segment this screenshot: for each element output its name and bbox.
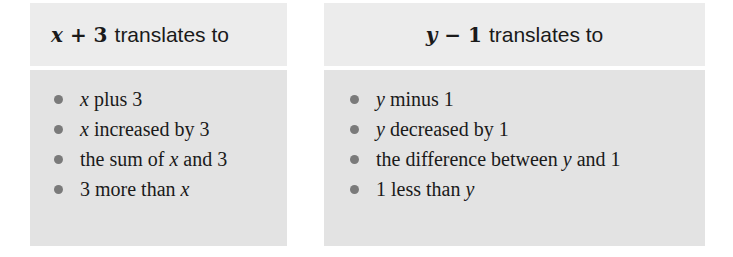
item-text-post: and 3 xyxy=(178,148,227,171)
item-text-post: plus 3 xyxy=(89,88,142,111)
item-variable: x xyxy=(80,118,89,141)
header-text: translates to xyxy=(489,23,603,47)
item-variable: x xyxy=(80,88,89,111)
list-item: y minus 1 xyxy=(324,84,705,114)
card-body: x plus 3 x increased by 3 the sum of x a… xyxy=(30,70,287,246)
card-header: x + 3 translates to xyxy=(30,3,287,66)
item-text-post: decreased by 1 xyxy=(385,118,509,141)
header-text: translates to xyxy=(115,23,229,47)
bullet-icon xyxy=(350,125,359,134)
item-text-pre: 3 more than xyxy=(80,178,181,201)
item-variable: y xyxy=(376,88,385,111)
bullet-icon xyxy=(54,125,63,134)
list-item: 1 less than y xyxy=(324,174,705,204)
item-text-post: increased by 3 xyxy=(89,118,210,141)
list-item: the difference between y and 1 xyxy=(324,144,705,174)
item-variable: x xyxy=(169,148,178,171)
item-variable: y xyxy=(465,178,474,201)
list-item: the sum of x and 3 xyxy=(30,144,287,174)
math-variable: x xyxy=(51,23,63,47)
translation-card-x-plus-3: x + 3 translates to x plus 3 x increased… xyxy=(30,3,287,246)
bullet-icon xyxy=(54,155,63,164)
item-variable: y xyxy=(376,118,385,141)
item-text-pre: 1 less than xyxy=(376,178,465,201)
item-text-pre: the difference between xyxy=(376,148,563,171)
bullet-icon xyxy=(350,95,359,104)
list-item: 3 more than x xyxy=(30,174,287,204)
item-text-post: minus 1 xyxy=(385,88,454,111)
translation-card-y-minus-1: y − 1 translates to y minus 1 y decrease… xyxy=(324,3,705,246)
item-variable: y xyxy=(563,148,572,171)
math-operation: − 1 xyxy=(437,23,482,47)
math-variable: y xyxy=(426,23,438,47)
card-header: y − 1 translates to xyxy=(324,3,705,66)
math-expression: x + 3 xyxy=(51,23,108,47)
item-text-post: and 1 xyxy=(572,148,621,171)
list-item: x plus 3 xyxy=(30,84,287,114)
list-item: y decreased by 1 xyxy=(324,114,705,144)
item-variable: x xyxy=(181,178,190,201)
list-item: x increased by 3 xyxy=(30,114,287,144)
math-expression: y − 1 xyxy=(426,23,482,47)
math-operation: + 3 xyxy=(63,23,108,47)
item-text-pre: the sum of xyxy=(80,148,169,171)
card-body: y minus 1 y decreased by 1 the differenc… xyxy=(324,70,705,246)
bullet-icon xyxy=(54,185,63,194)
bullet-icon xyxy=(54,95,63,104)
bullet-icon xyxy=(350,185,359,194)
bullet-icon xyxy=(350,155,359,164)
